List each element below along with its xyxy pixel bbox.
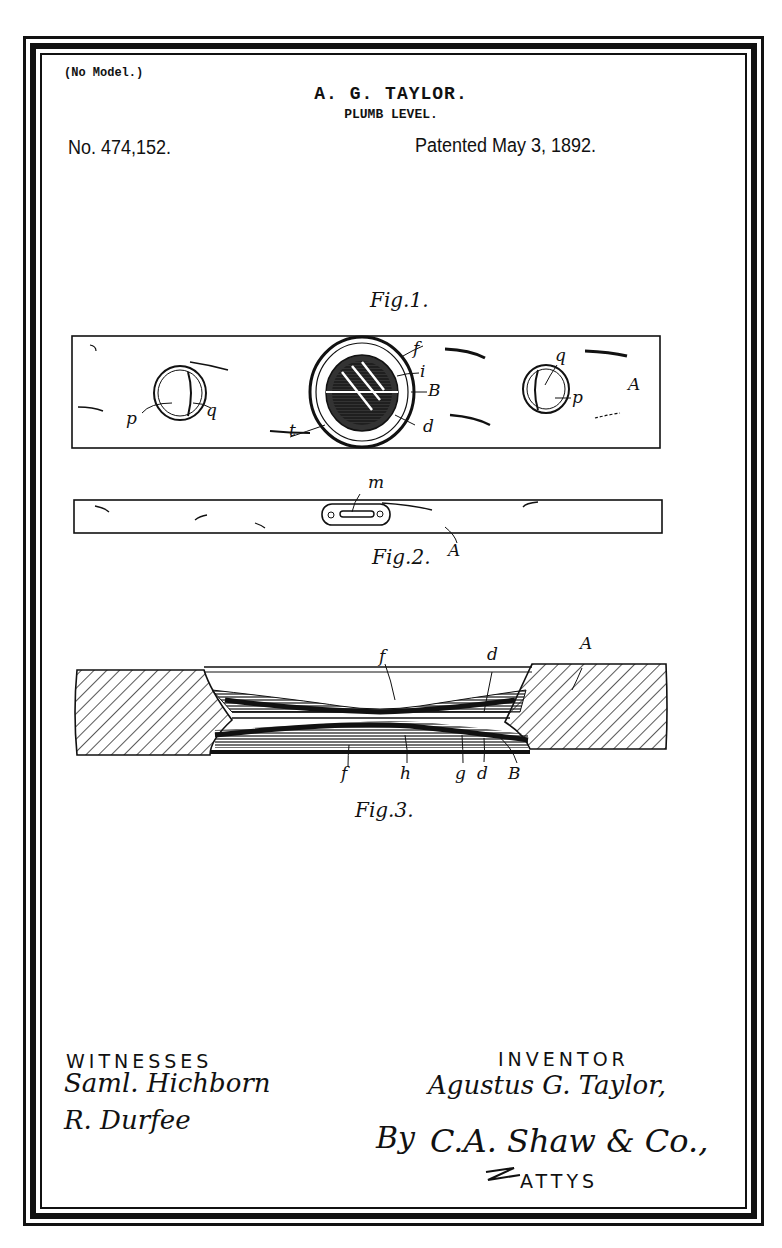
fig1-caption: Fig.1.: [370, 288, 429, 312]
fig2-caption: Fig.2.: [372, 545, 431, 569]
fig3-caption: Fig.3.: [355, 798, 414, 822]
by-label: By: [376, 1120, 415, 1155]
fig3-label-A: A: [580, 633, 592, 653]
figure-3-drawing: [75, 664, 667, 767]
fig3-label-h: h: [400, 763, 411, 783]
fig1-label-f: f: [413, 338, 419, 358]
flourish: [486, 1168, 520, 1180]
fig3-label-f-top: f: [379, 646, 385, 666]
fig1-label-i: i: [420, 361, 425, 381]
inventor-signature: Agustus G. Taylor,: [428, 1070, 666, 1100]
fig1-label-A: A: [628, 374, 640, 394]
fig1-label-q-left: q: [206, 400, 217, 420]
fig1-label-d: d: [423, 416, 434, 436]
fig3-label-B: B: [508, 763, 521, 783]
fig3-label-d-bottom: d: [477, 763, 488, 783]
witness-2-signature: R. Durfee: [64, 1105, 191, 1135]
attorney-signature: C.A. Shaw & Co.,: [430, 1122, 708, 1160]
inventor-heading: INVENTOR: [498, 1048, 629, 1070]
figure-2-drawing: [74, 494, 662, 543]
fig1-label-q-right: q: [555, 345, 566, 365]
fig1-label-p-right: p: [572, 387, 583, 407]
fig1-label-B: B: [428, 380, 441, 400]
fig2-label-m: m: [368, 472, 384, 492]
fig3-label-g: g: [455, 763, 466, 783]
fig1-label-t: t: [289, 420, 296, 440]
fig2-label-A: A: [448, 540, 460, 560]
fig3-label-f-bottom: f: [341, 763, 347, 783]
fig1-label-p-left: p: [126, 408, 137, 428]
fig3-label-d-top: d: [487, 644, 498, 664]
attys-label: ATTYS: [520, 1170, 598, 1192]
witness-1-signature: Saml. Hichborn: [64, 1068, 271, 1098]
